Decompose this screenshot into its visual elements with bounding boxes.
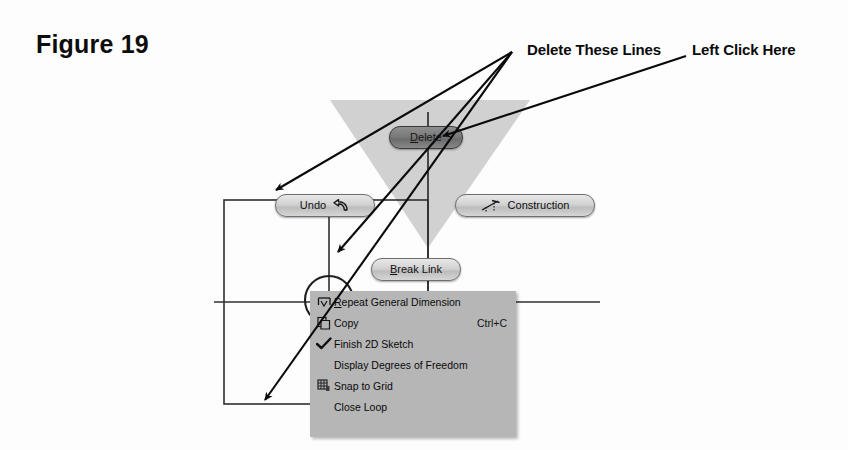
leader-delete-lines-3 <box>265 52 512 400</box>
annotation-label-delete-these-lines: Delete These Lines <box>527 41 661 58</box>
leader-delete-lines-2 <box>338 52 512 252</box>
annotation-layer <box>0 0 848 450</box>
annotation-label-left-click-here: Left Click Here <box>692 41 796 58</box>
leader-delete-lines-1 <box>276 52 512 190</box>
figure-page: Figure 19 Delete Undo <box>0 0 848 450</box>
leader-left-click-here <box>443 56 686 136</box>
